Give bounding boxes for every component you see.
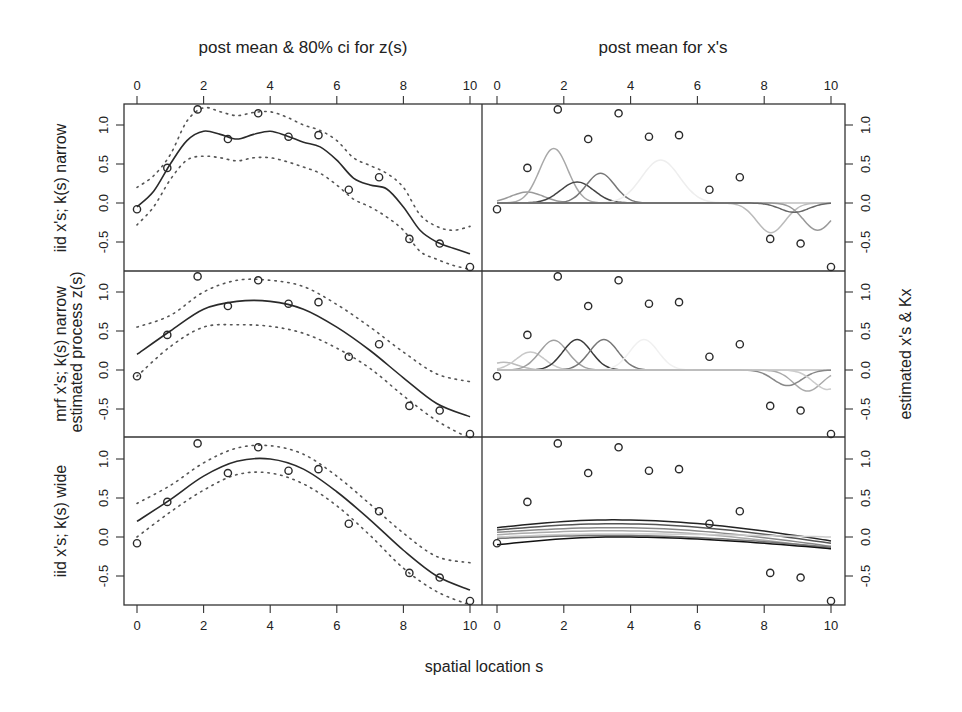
x-tick-label: 4 [627, 78, 634, 93]
kx-component-line [497, 160, 831, 203]
y-tick-label: 1.0 [96, 116, 111, 134]
observation-point [224, 469, 231, 476]
posterior-mean-line [137, 131, 470, 254]
observation-point [706, 186, 713, 193]
x-tick-label: 8 [400, 78, 407, 93]
kx-component-line [497, 192, 831, 203]
observation-point [285, 467, 292, 474]
right-column-title: post mean for x's [599, 38, 728, 57]
observation-point [554, 106, 561, 113]
x-tick-label: 10 [463, 618, 477, 633]
observation-point [524, 331, 531, 338]
observation-point [194, 440, 201, 447]
observation-point [436, 407, 443, 414]
panel-right-row-1 [497, 148, 831, 232]
y-tick-label: 0.0 [858, 194, 873, 212]
y-tick-label: 0.5 [96, 489, 111, 507]
x-tick-label: 0 [133, 78, 140, 93]
observation-point [615, 110, 622, 117]
y-tick-label: 1.0 [858, 450, 873, 468]
x-tick-label: 6 [333, 78, 340, 93]
y-axis-label-right: estimated x's & Kx [897, 288, 914, 419]
y-tick-label: -0.5 [96, 565, 111, 587]
x-tick-label: 2 [560, 78, 567, 93]
observation-point [554, 440, 561, 447]
panel-right-row-2 [497, 340, 831, 391]
observation-point [493, 540, 500, 547]
kx-component-line [497, 370, 831, 386]
observation-point [736, 508, 743, 515]
observation-point [493, 373, 500, 380]
plot-content [133, 106, 834, 605]
ci-band-line [137, 156, 470, 269]
posterior-mean-line [137, 458, 470, 590]
axes-frame: 0022446688101000224466881010-0.5-0.50.00… [96, 78, 873, 633]
y-tick-label: -0.5 [858, 231, 873, 253]
y-tick-label: 0.5 [858, 155, 873, 173]
y-tick-label: 0.5 [858, 489, 873, 507]
y-axis-label-left: estimated process z(s) [68, 272, 85, 433]
ci-band-line [137, 472, 470, 605]
y-tick-label: -0.5 [858, 565, 873, 587]
y-tick-label: 1.0 [96, 283, 111, 301]
chart-figure: post mean & 80% ci for z(s) post mean fo… [0, 0, 962, 712]
x-tick-label: 4 [267, 78, 274, 93]
observation-point [375, 508, 382, 515]
observation-point [736, 341, 743, 348]
kx-component-line [497, 148, 831, 203]
ci-band-line [137, 279, 470, 382]
x-tick-label: 8 [761, 78, 768, 93]
x-tick-label: 10 [463, 78, 477, 93]
observation-point [797, 240, 804, 247]
y-tick-label: -0.5 [858, 398, 873, 420]
panel-left-row-2 [137, 279, 470, 438]
x-tick-label: 0 [133, 618, 140, 633]
y-tick-label: 0.5 [96, 155, 111, 173]
panel-right-row-3 [497, 520, 831, 549]
x-tick-label: 10 [824, 78, 838, 93]
observation-point [345, 520, 352, 527]
observation-point [645, 133, 652, 140]
observation-point [345, 186, 352, 193]
y-tick-label: 0.0 [96, 528, 111, 546]
y-tick-label: 0.0 [858, 361, 873, 379]
observation-point [315, 132, 322, 139]
observation-point [585, 135, 592, 142]
observation-point [675, 466, 682, 473]
x-tick-label: 2 [200, 618, 207, 633]
observation-point [315, 466, 322, 473]
x-tick-label: 8 [400, 618, 407, 633]
y-tick-label: 1.0 [858, 116, 873, 134]
x-tick-label: 10 [824, 618, 838, 633]
observation-point [767, 235, 774, 242]
y-tick-label: 0.5 [858, 322, 873, 340]
observation-point [827, 263, 834, 270]
x-tick-label: 4 [627, 618, 634, 633]
x-axis-label: spatial location s [425, 658, 543, 675]
observation-point [524, 164, 531, 171]
observation-point [255, 277, 262, 284]
y-tick-label: 1.0 [858, 283, 873, 301]
x-tick-label: 8 [761, 618, 768, 633]
x-tick-label: 0 [493, 78, 500, 93]
kx-component-line [497, 370, 831, 391]
x-tick-label: 2 [560, 618, 567, 633]
y-tick-label: -0.5 [96, 231, 111, 253]
observation-point [554, 273, 561, 280]
panel-left-row-3 [137, 445, 470, 605]
observation-point [375, 341, 382, 348]
ci-band-line [137, 325, 470, 439]
observation-point [706, 353, 713, 360]
observation-point [194, 273, 201, 280]
y-tick-label: 0.0 [858, 528, 873, 546]
y-tick-label: 0.0 [96, 194, 111, 212]
observation-point [406, 402, 413, 409]
observation-point [375, 174, 382, 181]
ci-band-line [137, 107, 470, 230]
observation-point [767, 402, 774, 409]
observation-point [827, 597, 834, 604]
observation-point [736, 174, 743, 181]
x-tick-label: 6 [694, 618, 701, 633]
x-tick-label: 6 [694, 78, 701, 93]
left-column-title: post mean & 80% ci for z(s) [199, 38, 408, 57]
